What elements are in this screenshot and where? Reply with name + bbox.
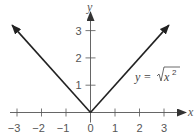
series-line-segment	[91, 25, 169, 112]
x-tick-label: −1	[57, 122, 70, 134]
annotation-exponent: 2	[172, 68, 177, 77]
y-tick-label: 1	[75, 79, 81, 91]
y-tick-label: 2	[75, 52, 81, 64]
annotation-radicand: x	[163, 70, 170, 84]
annotation-prefix: y =	[134, 70, 151, 84]
x-tick-label: 0	[87, 122, 93, 134]
y-tick-label: 3	[75, 25, 81, 37]
function-annotation: y = x 2	[134, 67, 180, 84]
x-tick-label: −3	[8, 122, 21, 134]
y-axis-label: y	[86, 0, 93, 14]
axes	[10, 12, 186, 123]
x-tick-label: −2	[32, 122, 45, 134]
chart: −3−2−10123123 x y y = x 2	[0, 0, 196, 139]
x-axis-label: x	[187, 105, 194, 119]
x-tick-label: 2	[136, 122, 142, 134]
x-tick-label: 3	[161, 122, 167, 134]
series-line-segment	[12, 25, 90, 112]
x-tick-label: 1	[112, 122, 118, 134]
